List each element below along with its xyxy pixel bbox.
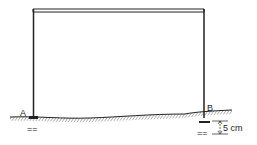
portal-frame-diagram: A == B == 5 cm (0, 0, 257, 145)
beam (33, 9, 204, 12)
support-a-label: A (20, 108, 26, 118)
support-a-footing (29, 116, 38, 119)
settlement-label: 5 cm (223, 123, 243, 133)
support-b-fixed-mark: == (197, 128, 208, 138)
support-b-label: B (207, 103, 213, 113)
support-a-fixed-mark: == (27, 124, 38, 134)
ground (10, 110, 232, 122)
